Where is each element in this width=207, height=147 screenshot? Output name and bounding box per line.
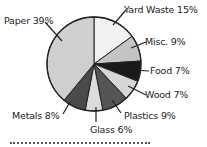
- slice-label: Glass 6%: [90, 124, 132, 135]
- pie-chart: Yard Waste 15%Misc. 9%Food 7%Wood 7%Plas…: [0, 0, 207, 147]
- slice-label: Metals 8%: [12, 110, 59, 121]
- slice-label: Yard Waste 15%: [124, 4, 198, 15]
- slice-label: Wood 7%: [145, 89, 188, 100]
- slice-label: Paper 39%: [4, 15, 53, 26]
- cut-off-footer-text: [10, 142, 150, 147]
- slice-label: Food 7%: [150, 65, 189, 76]
- slice-label: Misc. 9%: [145, 36, 186, 47]
- slice-label: Plastics 9%: [124, 110, 176, 121]
- leader-line: [63, 102, 70, 114]
